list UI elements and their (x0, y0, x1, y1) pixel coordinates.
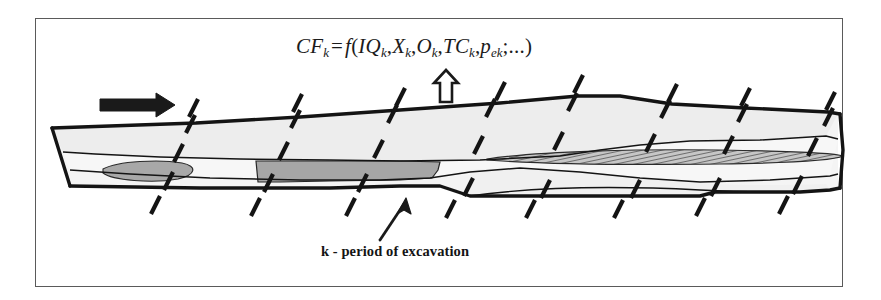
hollow-up-arrow (434, 70, 458, 102)
seam-lens-left (103, 161, 193, 181)
direction-of-advance-arrow (100, 93, 175, 117)
cross-section-artwork (0, 0, 881, 300)
edge-right-face (840, 114, 843, 188)
figure-root: CFk=f(IQk,Xk,Ok,TCk,pek;...) k - period … (0, 0, 881, 300)
caption-pointer-arrow (380, 198, 411, 240)
tick-row-bottom (151, 196, 788, 218)
